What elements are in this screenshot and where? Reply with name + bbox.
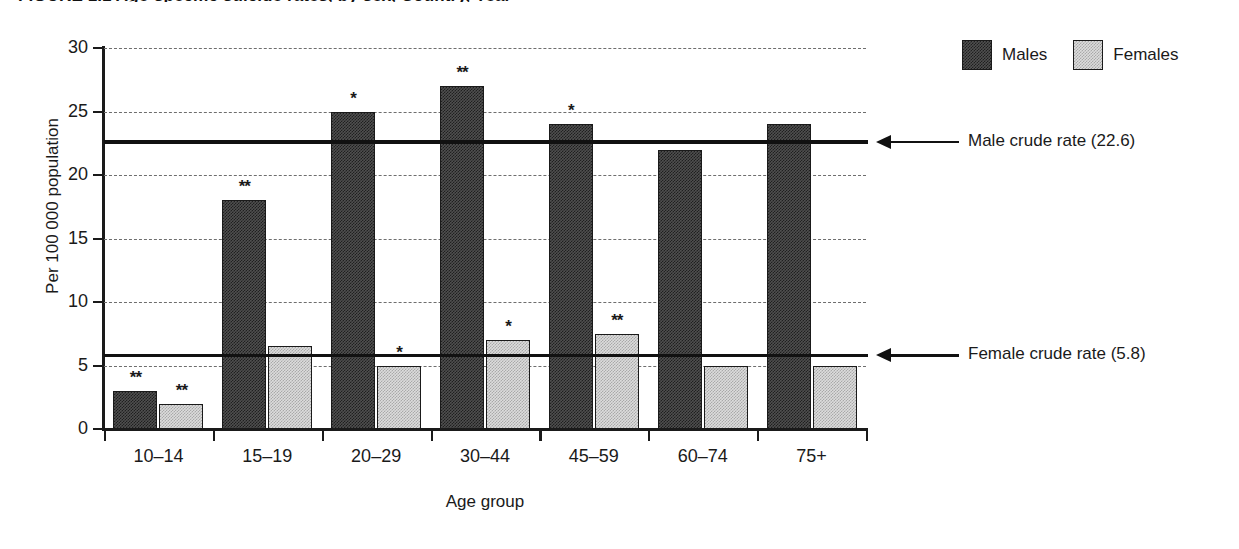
bar-males-30-44 bbox=[440, 86, 484, 429]
chart-legend: Males Females bbox=[962, 40, 1179, 70]
y-tick-label-30: 30 bbox=[48, 38, 88, 56]
bar-males-20-29 bbox=[331, 112, 375, 430]
female-crude-rate-arrow-icon bbox=[876, 348, 959, 362]
bar-females-75+ bbox=[813, 366, 857, 430]
x-tick-label-30-44: 30–44 bbox=[425, 446, 545, 467]
x-tick-mark-6 bbox=[757, 430, 759, 441]
x-tick-label-60-74: 60–74 bbox=[643, 446, 763, 467]
x-tick-label-20-29: 20–29 bbox=[316, 446, 436, 467]
male-crude-rate-arrow-icon bbox=[876, 135, 959, 149]
x-tick-label-15-19: 15–19 bbox=[207, 446, 327, 467]
gridline-y-20 bbox=[104, 175, 866, 176]
x-tick-mark-4 bbox=[539, 430, 541, 441]
bar-males-45-59 bbox=[549, 124, 593, 429]
male-crude-rate-label: Male crude rate (22.6) bbox=[968, 131, 1135, 151]
x-tick-label-45-59: 45–59 bbox=[534, 446, 654, 467]
y-tick-mark-30 bbox=[93, 47, 102, 49]
significance-marker-males-20-29: * bbox=[323, 90, 383, 107]
bar-females-20-29 bbox=[377, 366, 421, 430]
female-crude-rate-line bbox=[104, 354, 868, 357]
significance-marker-females-10-14: ** bbox=[151, 382, 211, 399]
x-axis-title: Age group bbox=[0, 492, 970, 512]
x-tick-mark-1 bbox=[213, 430, 215, 441]
gridline-y-15 bbox=[104, 239, 866, 240]
gridline-y-10 bbox=[104, 302, 866, 303]
female-crude-rate-label: Female crude rate (5.8) bbox=[968, 344, 1146, 364]
male-crude-rate-line bbox=[104, 140, 868, 143]
legend-swatch-males-icon bbox=[962, 40, 992, 70]
y-tick-mark-10 bbox=[93, 301, 102, 303]
x-tick-mark-2 bbox=[322, 430, 324, 441]
plot-area: ************** bbox=[104, 48, 866, 429]
y-tick-mark-5 bbox=[93, 365, 102, 367]
significance-marker-females-30-44: * bbox=[478, 318, 538, 335]
x-tick-mark-7 bbox=[866, 430, 868, 441]
y-tick-label-5: 5 bbox=[48, 356, 88, 374]
x-tick-mark-3 bbox=[431, 430, 433, 441]
significance-marker-males-30-44: ** bbox=[432, 64, 492, 81]
bar-males-75+ bbox=[767, 124, 811, 429]
x-tick-mark-5 bbox=[648, 430, 650, 441]
significance-marker-females-20-29: * bbox=[369, 344, 429, 361]
legend-label-females: Females bbox=[1113, 45, 1178, 65]
page-title: FIGURE 1.1 Age-specific suicide rates, b… bbox=[18, 0, 511, 2]
female-arrow-shaft bbox=[891, 354, 959, 357]
bar-males-60-74 bbox=[658, 150, 702, 429]
bar-males-15-19 bbox=[222, 200, 266, 429]
bar-females-60-74 bbox=[704, 366, 748, 430]
legend-item-females: Females bbox=[1073, 40, 1178, 70]
gridline-y-25 bbox=[104, 112, 866, 113]
y-tick-label-0: 0 bbox=[48, 419, 88, 437]
male-arrow-shaft bbox=[891, 141, 959, 144]
y-tick-mark-25 bbox=[93, 111, 102, 113]
legend-item-males: Males bbox=[962, 40, 1047, 70]
significance-marker-males-15-19: ** bbox=[214, 178, 274, 195]
significance-marker-males-45-59: * bbox=[541, 102, 601, 119]
y-axis-title: Per 100 000 population bbox=[43, 91, 63, 321]
legend-swatch-females-icon bbox=[1073, 40, 1103, 70]
x-tick-mark-0 bbox=[104, 430, 106, 441]
male-arrow-head-icon bbox=[876, 135, 891, 149]
female-arrow-head-icon bbox=[876, 348, 891, 362]
y-tick-mark-0 bbox=[93, 428, 102, 430]
legend-label-males: Males bbox=[1002, 45, 1047, 65]
x-tick-label-75+: 75+ bbox=[752, 446, 872, 467]
gridline-y-30 bbox=[104, 48, 866, 49]
bar-females-45-59 bbox=[595, 334, 639, 429]
bar-females-15-19 bbox=[268, 346, 312, 429]
significance-marker-females-45-59: ** bbox=[587, 312, 647, 329]
x-tick-label-10-14: 10–14 bbox=[98, 446, 218, 467]
gridline-y-5 bbox=[104, 366, 866, 367]
y-tick-mark-20 bbox=[93, 174, 102, 176]
bar-females-10-14 bbox=[159, 404, 203, 429]
y-tick-mark-15 bbox=[93, 238, 102, 240]
